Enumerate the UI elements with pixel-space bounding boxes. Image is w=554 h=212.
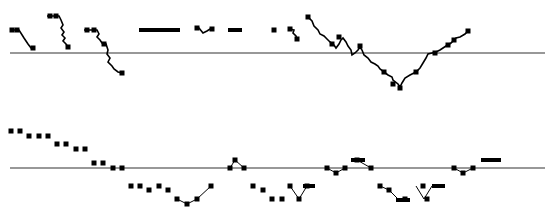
data-point-marker: [325, 166, 330, 171]
data-point-marker: [111, 166, 116, 171]
data-point-marker: [74, 147, 79, 152]
data-point-marker: [166, 188, 171, 193]
trace-line: [10, 30, 34, 48]
data-point-marker: [452, 38, 457, 43]
data-point-marker: [31, 46, 36, 51]
upper-trace-panel: [10, 14, 546, 91]
data-point-marker: [48, 14, 53, 19]
data-point-marker: [64, 142, 69, 147]
data-point-marker: [471, 166, 476, 171]
data-point-marker: [66, 45, 71, 50]
data-point-marker: [209, 184, 214, 189]
trace-line: [47, 16, 68, 47]
data-point-marker: [10, 28, 15, 33]
data-point-marker: [27, 134, 32, 139]
data-point-marker: [251, 184, 256, 189]
data-point-marker: [9, 129, 14, 134]
data-point-marker: [195, 26, 200, 31]
connector-line: [177, 186, 211, 204]
data-point-marker: [233, 158, 238, 163]
data-point-marker: [92, 28, 97, 33]
data-point-marker: [369, 166, 374, 171]
trace-line: [308, 17, 468, 87]
data-point-marker: [129, 184, 134, 189]
data-point-marker: [446, 43, 451, 48]
plot-canvas: [0, 0, 554, 212]
data-point-marker: [228, 166, 233, 171]
figure: [0, 0, 554, 212]
data-point-marker: [280, 197, 285, 202]
data-point-marker: [378, 184, 383, 189]
data-point-marker: [382, 70, 387, 75]
data-point-marker: [425, 197, 430, 202]
data-point-marker: [288, 184, 293, 189]
data-point-marker: [261, 188, 266, 193]
data-point-marker: [37, 134, 42, 139]
data-point-marker: [120, 71, 125, 76]
data-point-marker: [242, 166, 247, 171]
data-point-marker: [46, 134, 51, 139]
data-point-marker: [270, 197, 275, 202]
data-point-marker: [120, 166, 125, 171]
flat-bar-marker: [481, 158, 501, 162]
data-point-marker: [421, 184, 426, 189]
flat-bar-marker: [432, 184, 445, 188]
data-point-marker: [185, 202, 190, 207]
data-point-marker: [195, 197, 200, 202]
data-point-marker: [330, 42, 335, 47]
data-point-marker: [387, 188, 392, 193]
data-point-marker: [398, 86, 403, 91]
data-point-marker: [101, 161, 106, 166]
data-point-marker: [461, 171, 466, 176]
data-point-marker: [391, 82, 396, 87]
data-point-marker: [466, 29, 471, 34]
data-point-marker: [85, 28, 90, 33]
data-point-marker: [295, 37, 300, 42]
flat-bar-marker: [396, 198, 410, 202]
data-point-marker: [306, 15, 311, 20]
data-point-marker: [297, 197, 302, 202]
data-point-marker: [15, 28, 20, 33]
data-point-marker: [138, 184, 143, 189]
lower-scatter-panel: [9, 129, 546, 207]
flat-bar-marker: [351, 158, 365, 162]
data-point-marker: [414, 70, 419, 75]
data-point-marker: [452, 166, 457, 171]
data-point-marker: [83, 147, 88, 152]
data-point-marker: [54, 14, 59, 19]
data-point-marker: [102, 42, 107, 47]
data-point-marker: [92, 161, 97, 166]
data-point-marker: [18, 129, 23, 134]
data-point-marker: [55, 142, 60, 147]
data-point-marker: [175, 197, 180, 202]
data-point-marker: [343, 166, 348, 171]
trace-line: [84, 30, 122, 73]
data-point-marker: [337, 35, 342, 40]
data-point-marker: [272, 28, 277, 33]
data-point-marker: [147, 188, 152, 193]
data-point-marker: [157, 184, 162, 189]
data-point-marker: [334, 171, 339, 176]
data-point-marker: [288, 27, 293, 32]
flat-bar-marker: [303, 184, 315, 188]
data-point-marker: [433, 51, 438, 56]
data-point-marker: [210, 27, 215, 32]
data-point-marker: [358, 44, 363, 49]
